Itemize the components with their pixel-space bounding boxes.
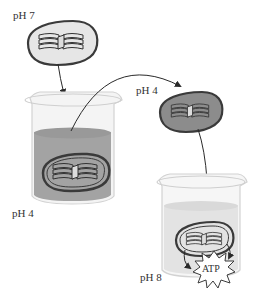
chloroplast-ph4 (160, 92, 222, 132)
chloroplast-in-acid (43, 154, 109, 191)
arrow-into-base (198, 129, 207, 180)
label-atp: ATP (202, 263, 220, 274)
diagram-canvas (0, 0, 259, 295)
arrow-into-acid (58, 64, 64, 94)
label-start-ph: pH 7 (13, 9, 35, 21)
label-acid-bath-ph: pH 4 (12, 207, 34, 219)
label-transferred-ph: pH 4 (136, 84, 158, 96)
chloroplast-ph7 (28, 21, 97, 65)
label-base-bath-ph: pH 8 (140, 271, 162, 283)
